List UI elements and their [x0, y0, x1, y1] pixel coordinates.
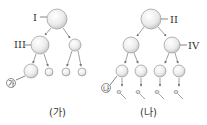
- polar-body: [78, 68, 86, 76]
- arrow: [158, 27, 166, 36]
- sperm-icon: [174, 90, 183, 99]
- sperm-icon: [136, 90, 145, 99]
- label-II: II: [170, 14, 178, 25]
- cell-secondary: [123, 37, 139, 53]
- leader-line: [16, 76, 25, 80]
- arrow: [137, 27, 144, 36]
- label-IV: IV: [188, 40, 200, 51]
- label-III: III: [14, 39, 26, 50]
- polar-body: [45, 68, 53, 76]
- diagram-right: II IV 나: [102, 9, 200, 118]
- spermatid: [173, 65, 185, 77]
- spermatid: [154, 65, 166, 77]
- label-ga: 가: [8, 79, 15, 88]
- leader-line: [110, 76, 117, 85]
- polar-body: [62, 68, 70, 76]
- cell-IV: [164, 37, 180, 53]
- arrow: [165, 53, 169, 63]
- arrow: [44, 54, 48, 66]
- arrow: [63, 28, 70, 38]
- label-I: I: [33, 12, 37, 23]
- cell-secondary: [69, 39, 81, 51]
- diagram-left: I III 가 (가): [7, 9, 87, 118]
- meiosis-diagram: I III 가 (가) II IV: [0, 0, 207, 125]
- arrow: [125, 53, 128, 63]
- cell-I: [47, 9, 67, 29]
- label-na: 나: [103, 84, 110, 93]
- cell-II: [141, 9, 161, 29]
- sperm-icon: [117, 90, 126, 99]
- cell-na: [116, 65, 128, 77]
- caption-left: (가): [49, 107, 66, 118]
- cell-ga: [24, 64, 38, 78]
- arrow: [33, 54, 36, 63]
- arrow: [45, 28, 51, 35]
- arrow: [134, 53, 138, 63]
- arrow: [78, 51, 81, 66]
- cell-III: [31, 36, 49, 54]
- arrow: [67, 51, 72, 66]
- sperm-icon: [155, 90, 164, 99]
- spermatid: [135, 65, 147, 77]
- arrow: [175, 53, 178, 63]
- caption-right: (나): [140, 107, 157, 118]
